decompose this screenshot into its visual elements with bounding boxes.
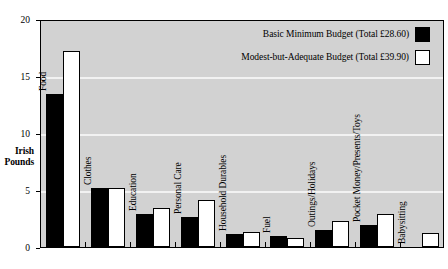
bar-category-label: Food xyxy=(38,72,48,91)
x-tick-mark xyxy=(220,242,221,247)
y-tick-mark xyxy=(36,248,40,249)
bar-basic xyxy=(360,225,377,247)
y-axis-title-line2: Pounds xyxy=(0,157,34,168)
y-tick-label: 15 xyxy=(4,72,30,82)
bar-modest xyxy=(332,221,349,247)
bar-modest xyxy=(287,238,304,247)
x-tick-mark xyxy=(265,242,266,247)
bar-category-label: Clothes xyxy=(83,156,93,184)
bar-modest xyxy=(153,208,170,247)
bar-modest xyxy=(108,188,125,247)
x-tick-mark xyxy=(400,242,401,247)
legend-label-modest: Modest-but-Adequate Budget (Total £39.90… xyxy=(241,52,409,63)
y-tick-label: 10 xyxy=(4,129,30,139)
bar-modest xyxy=(198,200,215,247)
y-axis-title-line1: Irish xyxy=(0,146,34,157)
bar-basic xyxy=(46,94,63,247)
bar-category-label: Babysitting xyxy=(397,201,407,244)
bar-basic xyxy=(226,234,243,247)
bar-group: Education xyxy=(136,21,170,247)
legend-item-basic: Basic Minimum Budget (Total £28.60) xyxy=(241,27,430,42)
y-axis-title: Irish Pounds xyxy=(0,146,34,168)
bar-category-label: Personal Care xyxy=(173,163,183,215)
bar-modest xyxy=(422,233,439,247)
bar-modest xyxy=(377,214,394,247)
bar-basic xyxy=(136,214,153,247)
bar-basic xyxy=(181,217,198,247)
x-tick-mark xyxy=(355,242,356,247)
legend-swatch-basic-icon xyxy=(415,27,430,42)
bar-category-label: Household Durables xyxy=(218,155,228,231)
chart-legend: Basic Minimum Budget (Total £28.60) Mode… xyxy=(241,27,430,65)
x-tick-mark xyxy=(85,242,86,247)
y-tick-label: 5 xyxy=(4,186,30,196)
x-tick-mark xyxy=(130,242,131,247)
bar-basic xyxy=(91,188,108,247)
bar-chart: Irish Pounds 05101520 FoodClothesEducati… xyxy=(0,0,448,269)
bar-category-label: Pocket Money/Presents/Toys xyxy=(352,115,362,223)
bar-modest xyxy=(63,51,80,247)
bar-group: Clothes xyxy=(91,21,125,247)
bar-category-label: Education xyxy=(128,173,138,211)
x-tick-mark xyxy=(310,242,311,247)
bar-group: Personal Care xyxy=(181,21,215,247)
bar-category-label: Fuel xyxy=(262,216,272,233)
bar-basic xyxy=(270,236,287,247)
legend-label-basic: Basic Minimum Budget (Total £28.60) xyxy=(263,29,409,40)
x-tick-mark xyxy=(175,242,176,247)
legend-item-modest: Modest-but-Adequate Budget (Total £39.90… xyxy=(241,50,430,65)
bar-category-label: Outings/Holidays xyxy=(307,161,317,226)
legend-swatch-modest-icon xyxy=(415,50,430,65)
bar-group: Food xyxy=(46,21,80,247)
bar-basic xyxy=(315,230,332,247)
y-tick-label: 20 xyxy=(4,15,30,25)
bar-modest xyxy=(243,232,260,247)
y-tick-label: 0 xyxy=(4,243,30,253)
